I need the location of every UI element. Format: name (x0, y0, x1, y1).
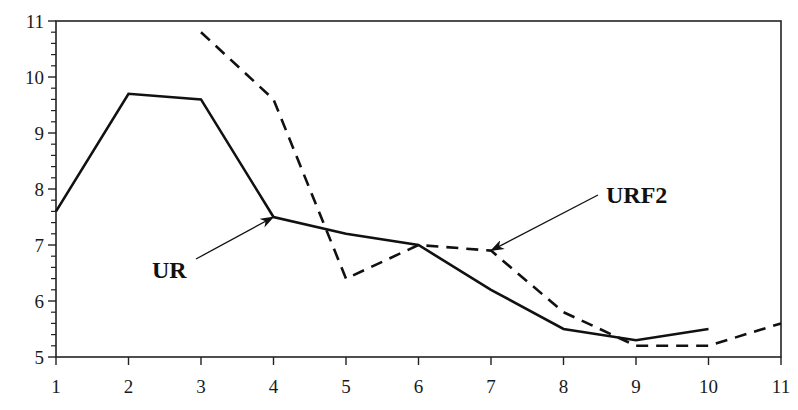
x-tick-label: 5 (341, 376, 351, 397)
annotation-label-urf2: URF2 (606, 182, 667, 208)
x-tick-label: 1 (51, 376, 61, 397)
y-tick-label: 8 (35, 179, 45, 200)
series-line-ur (56, 94, 709, 340)
y-tick-label: 5 (35, 347, 45, 368)
x-tick-label: 9 (631, 376, 641, 397)
annotation-layer: URURF2 (152, 182, 667, 283)
y-tick-label: 6 (35, 291, 45, 312)
line-chart: 567891011 1234567891011 URURF2 (0, 0, 798, 410)
x-tick-label: 3 (196, 376, 206, 397)
y-axis: 567891011 (25, 11, 56, 368)
y-tick-label: 10 (25, 67, 44, 88)
x-tick-label: 4 (269, 376, 279, 397)
x-axis: 1234567891011 (51, 357, 790, 397)
plot-border (56, 21, 781, 357)
annotation-label-ur: UR (152, 257, 187, 283)
y-tick-label: 9 (35, 123, 45, 144)
x-tick-label: 10 (699, 376, 718, 397)
annotation-arrow-urf2 (491, 195, 598, 251)
x-tick-label: 8 (559, 376, 569, 397)
series-line-urf2 (201, 32, 781, 346)
x-tick-label: 7 (486, 376, 496, 397)
x-tick-label: 2 (124, 376, 134, 397)
y-tick-label: 11 (26, 11, 44, 32)
annotation-arrow-ur (196, 217, 274, 259)
series-layer (56, 32, 781, 346)
plot-frame (56, 21, 781, 357)
x-tick-label: 11 (772, 376, 790, 397)
x-tick-label: 6 (414, 376, 424, 397)
y-tick-label: 7 (35, 235, 45, 256)
